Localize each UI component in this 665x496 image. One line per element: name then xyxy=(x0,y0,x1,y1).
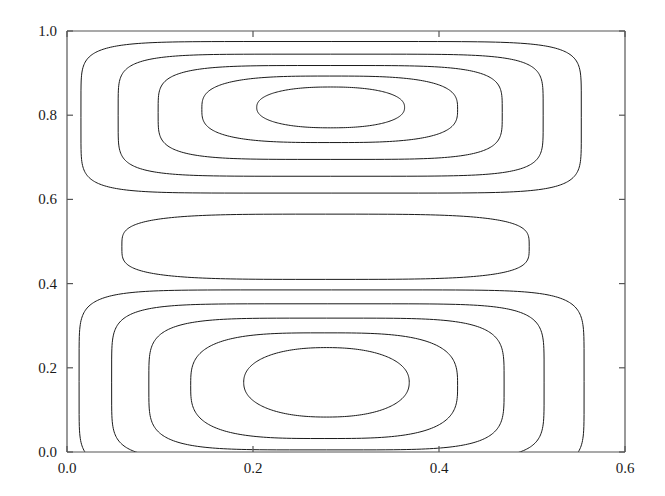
x-tick-label-0: 0.0 xyxy=(58,460,77,476)
y-tick-label-3: 0.6 xyxy=(38,191,57,207)
x-tick-label-2: 0.4 xyxy=(430,460,449,476)
y-tick-label-4: 0.8 xyxy=(38,107,57,123)
y-tick-label-1: 0.2 xyxy=(38,360,57,376)
plot-area xyxy=(67,31,625,452)
y-tick-label-2: 0.4 xyxy=(38,276,57,292)
plot-background xyxy=(67,31,625,452)
y-tick-label-5: 1.0 xyxy=(38,23,57,39)
x-tick-label-3: 0.6 xyxy=(616,460,635,476)
x-tick-label-1: 0.2 xyxy=(244,460,263,476)
y-tick-label-0: 0.0 xyxy=(38,444,57,460)
contour-plot-figure: 0.00.20.40.6 0.00.20.40.60.81.0 xyxy=(0,0,665,496)
